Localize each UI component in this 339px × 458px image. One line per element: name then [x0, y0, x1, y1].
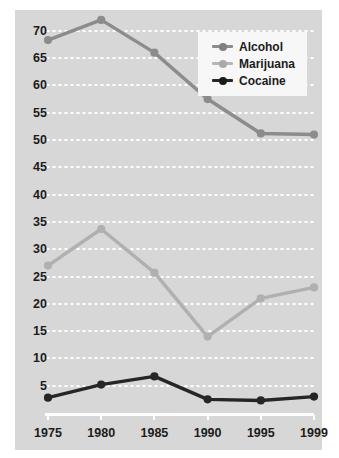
line-marker-icon	[212, 58, 233, 70]
data-point-marker	[97, 225, 105, 233]
x-axis-tick-mark	[47, 415, 49, 420]
line-marker-icon	[212, 41, 233, 53]
data-point-marker	[150, 49, 158, 57]
legend-label-alcohol: Alcohol	[239, 41, 283, 53]
data-point-marker	[257, 294, 265, 302]
data-point-marker	[44, 36, 52, 44]
legend-item-alcohol[interactable]: Alcohol	[198, 38, 307, 55]
series-line-cocaine	[48, 376, 314, 400]
x-axis-tick-mark	[313, 415, 315, 420]
data-point-marker	[204, 395, 212, 403]
legend-item-cocaine[interactable]: Cocaine	[198, 72, 307, 89]
data-point-marker	[257, 396, 265, 404]
legend-item-marijuana[interactable]: Marijuana	[198, 55, 307, 72]
data-point-marker	[257, 129, 265, 137]
x-axis-tick-mark	[100, 415, 102, 420]
x-axis-tick-mark	[207, 415, 209, 420]
chart-legend: Alcohol Marijuana Cocaine	[198, 32, 307, 96]
data-point-marker	[44, 394, 52, 402]
data-point-marker	[44, 261, 52, 269]
chart-figure: 510152025303540455055606570 197519801985…	[0, 0, 339, 458]
line-marker-icon	[212, 75, 233, 87]
x-axis-tick-mark	[153, 415, 155, 420]
x-axis-tick-mark	[260, 415, 262, 420]
data-point-marker	[150, 269, 158, 277]
legend-label-marijuana: Marijuana	[239, 58, 295, 70]
data-point-marker	[310, 393, 318, 401]
legend-label-cocaine: Cocaine	[239, 75, 286, 87]
data-point-marker	[97, 381, 105, 389]
data-point-marker	[150, 372, 158, 380]
series-line-marijuana	[48, 229, 314, 337]
data-point-marker	[97, 16, 105, 24]
data-point-marker	[204, 332, 212, 340]
data-point-marker	[310, 130, 318, 138]
data-point-marker	[310, 283, 318, 291]
data-point-marker	[204, 95, 212, 103]
